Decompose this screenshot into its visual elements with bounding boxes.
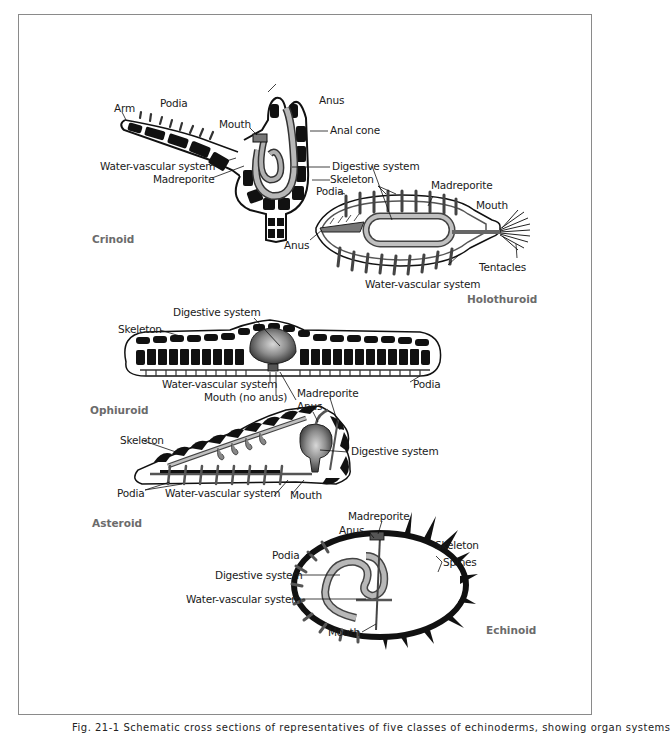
echinoid-mouth-label: Mouth: [328, 627, 360, 638]
asteroid-title: Asteroid: [92, 518, 142, 529]
crinoid-madreporite-label: Madreporite: [153, 174, 214, 185]
ophiuroid-title: Ophiuroid: [90, 405, 149, 416]
asteroid-mouth-label: Mouth: [290, 490, 322, 501]
asteroid-podia-label: Podia: [117, 488, 144, 499]
asteroid-digestive-label: Digestive system: [351, 446, 438, 457]
asteroid-water-vascular-label: Water-vascular system: [165, 488, 280, 499]
holothuroid-anus-label: Anus: [284, 240, 309, 251]
echinoid-water-vascular-label: Water-vascular system: [186, 594, 301, 605]
crinoid-water-vascular-label: Water-vascular system: [100, 161, 215, 172]
holothuroid-mouth-label: Mouth: [476, 200, 508, 211]
crinoid-anus-label: Anus: [319, 95, 344, 106]
ophiuroid-digestive-label: Digestive system: [173, 307, 260, 318]
holothuroid-tentacles-label: Tentacles: [479, 262, 526, 273]
crinoid-title: Crinoid: [92, 234, 134, 245]
asteroid-anus-label: Anus: [297, 401, 322, 412]
echinoid-madreporite-label: Madreporite: [348, 511, 409, 522]
echinoid-podia-label: Podia: [272, 550, 299, 561]
figure-caption: Fig. 21-1 Schematic cross sections of re…: [72, 722, 671, 733]
crinoid-arm-label: Arm: [114, 103, 135, 114]
holothuroid-madreporite-label: Madreporite: [431, 180, 492, 191]
crinoid-anal-cone-label: Anal cone: [330, 125, 380, 136]
crinoid-skeleton-label: Skeleton: [330, 174, 374, 185]
holothuroid-water-vascular-label: Water-vascular system: [365, 279, 480, 290]
holothuroid-podia-label: Podia: [316, 186, 343, 197]
ophiuroid-mouth-label: Mouth (no anus): [204, 392, 287, 403]
echinoid-title: Echinoid: [486, 625, 536, 636]
crinoid-podia-label: Podia: [160, 98, 187, 109]
echinoid-diagram: [290, 512, 478, 650]
holothuroid-title: Holothuroid: [467, 294, 537, 305]
ophiuroid-madreporite-label: Madreporite: [297, 388, 358, 399]
echinoid-spines-label: Spines: [443, 557, 477, 568]
echinoid-skeleton-label: Skeleton: [435, 540, 479, 551]
asteroid-diagram: [135, 398, 350, 496]
ophiuroid-water-vascular-label: Water-vascular system: [162, 379, 277, 390]
echinoid-digestive-label: Digestive system: [215, 570, 302, 581]
ophiuroid-podia-label: Podia: [413, 379, 440, 390]
ophiuroid-skeleton-label: Skeleton: [118, 324, 162, 335]
asteroid-skeleton-label: Skeleton: [120, 435, 164, 446]
crinoid-mouth-label: Mouth: [219, 119, 251, 130]
crinoid-digestive-label: Digestive system: [332, 161, 419, 172]
echinoid-anus-label: Anus: [339, 525, 364, 536]
